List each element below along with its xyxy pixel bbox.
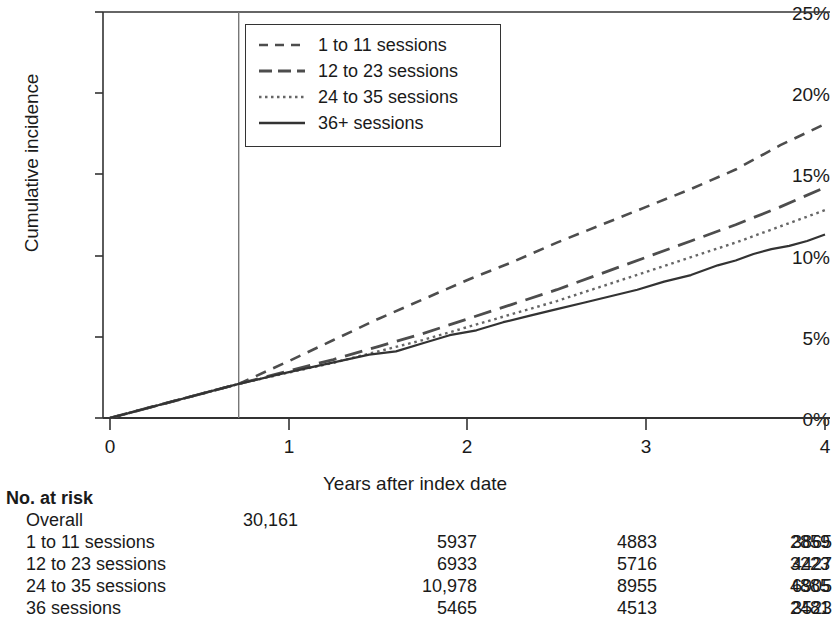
risk-row-value: 2859: [760, 531, 830, 553]
legend-label: 36+ sessions: [318, 114, 424, 132]
series-line: [110, 210, 825, 418]
legend-item-1-to-11: 1 to 11 sessions: [246, 32, 500, 58]
series-line: [110, 234, 825, 418]
risk-row-value: 5716: [565, 553, 657, 575]
x-tick-label-2: 2: [447, 436, 487, 458]
risk-row-value: 2481: [760, 597, 830, 619]
legend-swatch-dashed-icon: [258, 38, 306, 52]
risk-row-value: 3223: [760, 553, 830, 575]
risk-row-value: 4513: [565, 597, 657, 619]
risk-row-label: 24 to 35 sessions: [26, 575, 166, 597]
table-row: 36 sessions 5465 4513 3523 2481: [0, 597, 830, 619]
risk-row-value: 6933: [385, 553, 477, 575]
risk-row-value: 4883: [565, 531, 657, 553]
legend-label: 24 to 35 sessions: [318, 88, 458, 106]
table-row: 12 to 23 sessions 6933 5716 4427 3223: [0, 553, 830, 575]
x-tick-label-4: 4: [805, 436, 836, 458]
series-layer: [110, 124, 825, 418]
table-row: Overall 30,161: [0, 509, 830, 531]
risk-row-label: 1 to 11 sessions: [26, 531, 155, 553]
legend-swatch-dotted-icon: [258, 90, 306, 104]
risk-row-label: 36 sessions: [26, 597, 121, 619]
risk-row-label: 12 to 23 sessions: [26, 553, 166, 575]
legend-label: 12 to 23 sessions: [318, 62, 458, 80]
series-line: [110, 187, 825, 418]
legend-item-36-plus: 36+ sessions: [246, 110, 500, 136]
legend-swatch-long-dash-icon: [258, 64, 306, 78]
risk-table-title: No. at risk: [0, 487, 830, 509]
table-row: 24 to 35 sessions 10,978 8955 6905 4885: [0, 575, 830, 597]
risk-row-value: 5465: [385, 597, 477, 619]
legend: 1 to 11 sessions 12 to 23 sessions 24 to…: [245, 24, 501, 147]
risk-row-value: 30,161: [206, 509, 298, 531]
x-tick-label-1: 1: [269, 436, 309, 458]
table-row: 1 to 11 sessions 5937 4883 3865 2859: [0, 531, 830, 553]
series-line: [110, 124, 825, 418]
risk-row-value: 8955: [565, 575, 657, 597]
risk-row-value: 4885: [760, 575, 830, 597]
risk-table: No. at risk Overall 30,161 1 to 11 sessi…: [0, 487, 830, 619]
x-tick-label-3: 3: [626, 436, 666, 458]
risk-row-label: Overall: [26, 509, 83, 531]
x-tick-label-0: 0: [90, 436, 130, 458]
risk-row-value: 10,978: [385, 575, 477, 597]
legend-swatch-solid-icon: [258, 116, 306, 130]
legend-item-24-to-35: 24 to 35 sessions: [246, 84, 500, 110]
legend-label: 1 to 11 sessions: [318, 36, 447, 54]
risk-row-value: 5937: [385, 531, 477, 553]
legend-item-12-to-23: 12 to 23 sessions: [246, 58, 500, 84]
